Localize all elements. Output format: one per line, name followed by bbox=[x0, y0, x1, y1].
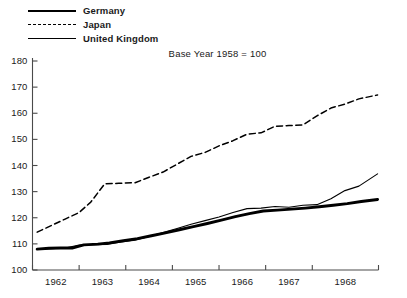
x-axis-tick-label: 1963 bbox=[82, 277, 122, 287]
x-axis-tick-label: 1964 bbox=[129, 277, 169, 287]
x-axis-tick-label: 1965 bbox=[176, 277, 216, 287]
y-axis-tick-label: 170 bbox=[2, 82, 28, 92]
series-line-united-kingdom bbox=[37, 174, 377, 250]
x-axis-tick-label: 1962 bbox=[36, 277, 76, 287]
x-axis-tick-label: 1968 bbox=[325, 277, 365, 287]
line-chart: Germany Japan United Kingdom Base Year 1… bbox=[0, 0, 407, 298]
series-line-germany bbox=[37, 199, 377, 249]
y-axis-tick-label: 140 bbox=[2, 161, 28, 171]
x-axis-tick-label: 1966 bbox=[222, 277, 262, 287]
series-layer bbox=[37, 95, 377, 249]
y-axis-tick-label: 110 bbox=[2, 239, 28, 249]
plot-svg bbox=[0, 0, 407, 298]
y-axis-tick-label: 130 bbox=[2, 187, 28, 197]
y-axis-tick-label: 120 bbox=[2, 213, 28, 223]
y-axis-tick-label: 160 bbox=[2, 108, 28, 118]
x-axis-tick-label: 1967 bbox=[269, 277, 309, 287]
y-axis-tick-label: 150 bbox=[2, 134, 28, 144]
plot-area: 100110120130140150160170180 196219631964… bbox=[0, 0, 407, 298]
y-axis-tick-label: 180 bbox=[2, 56, 28, 66]
axis-layer bbox=[33, 58, 379, 270]
series-line-japan bbox=[37, 95, 377, 232]
y-axis-tick-label: 100 bbox=[2, 265, 28, 275]
